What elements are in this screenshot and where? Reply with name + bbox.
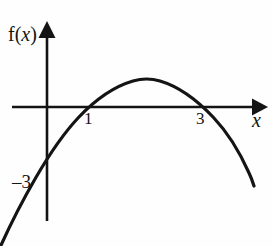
y-axis-label: f(x) [8,24,37,44]
function-graph-figure: f(x) x 1 3 –3 [0,0,273,246]
y-intercept-label: –3 [12,172,31,191]
y-axis-label-variable: x [21,23,30,45]
x-intercept-label-1: 1 [84,110,93,127]
parabola-curve [1,79,254,245]
x-intercept-label-3: 3 [196,110,205,127]
arrow-up-icon [39,21,56,38]
y-axis-label-text: f [8,23,15,45]
x-axis-label: x [252,110,261,130]
graph-canvas [0,0,273,246]
